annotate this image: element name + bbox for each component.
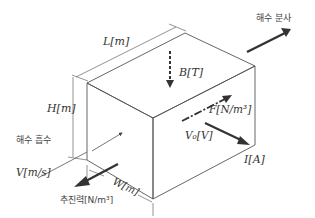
magnetic-field-label: B[T] (178, 66, 204, 79)
height-label: H[m] (46, 102, 76, 115)
force-label: F[N/m³] (208, 103, 252, 115)
magnetic-field-arrow (166, 51, 174, 88)
width-label: W[m] (111, 176, 141, 198)
length-label: L[m] (102, 35, 130, 48)
voltage-label: V₀[V] (185, 129, 213, 141)
seawater-jet-label: 해수 분사 (256, 13, 292, 23)
seawater-intake-label: 해수 흡수 (16, 134, 51, 145)
velocity-label: V[m/s] (16, 166, 52, 178)
mhd-thruster-diagram: L[m] H[m] B[T] F[N/m³] V₀[V] I[A] V[m/s]… (0, 0, 315, 218)
jet-arrow (247, 28, 291, 52)
thrust-label: 추진력[N/m³] (60, 194, 113, 205)
current-label: I[A] (243, 153, 266, 166)
